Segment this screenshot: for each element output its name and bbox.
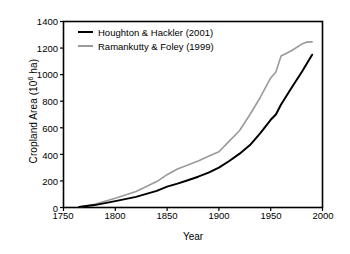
plot-area bbox=[0, 0, 350, 254]
data-series bbox=[79, 42, 312, 207]
chart-figure: Cropland Area (106 ha) 1400 1200 1000 80… bbox=[0, 0, 350, 254]
axes-frame bbox=[64, 22, 323, 208]
axis-ticks bbox=[60, 22, 323, 212]
